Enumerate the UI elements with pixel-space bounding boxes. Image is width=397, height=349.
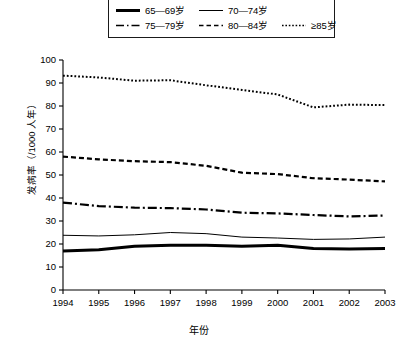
- x-axis-tick-label: 1999: [231, 297, 252, 308]
- legend-row-2: 75—79岁 80—84岁 ≥85岁: [115, 18, 328, 33]
- legend-label-75-79: 75—79岁: [145, 21, 185, 31]
- legend-swatch-dotted: [281, 21, 307, 30]
- x-axis-tick-label: 1994: [52, 297, 73, 308]
- x-axis-tick-label: 2002: [339, 297, 360, 308]
- y-axis-tick-label: 0: [51, 284, 56, 295]
- x-axis-tick-label: 1997: [160, 297, 181, 308]
- legend-entry-75-79: 75—79岁: [115, 21, 185, 31]
- legend-swatch-dash-dot: [115, 21, 141, 30]
- x-axis-tick-label: 1995: [88, 297, 109, 308]
- y-axis-tick-label: 60: [45, 146, 56, 157]
- legend-entry-65-69: 65—69岁: [115, 6, 185, 16]
- legend-entry-85-plus: ≥85岁: [281, 21, 336, 31]
- y-axis-tick-label: 20: [45, 238, 56, 249]
- x-axis-label: 年份: [0, 322, 397, 337]
- legend-swatch-dashed: [198, 21, 224, 30]
- legend-swatch-solid-thick: [115, 6, 141, 15]
- legend-entry-80-84: 80—84岁: [198, 21, 268, 31]
- incidence-rate-line-chart: 65—69岁 70—74岁 75—79岁 80—84岁: [0, 0, 397, 349]
- legend-swatch-solid-thin: [198, 6, 224, 15]
- y-axis-tick-label: 80: [45, 100, 56, 111]
- series-line: [63, 233, 385, 240]
- y-axis-tick-label: 30: [45, 215, 56, 226]
- x-axis-tick-label: 2000: [267, 297, 288, 308]
- y-axis-tick-label: 50: [45, 169, 56, 180]
- x-axis-tick-label: 2003: [374, 297, 395, 308]
- y-axis-tick-label: 10: [45, 261, 56, 272]
- series-line: [63, 203, 385, 217]
- legend-label-80-84: 80—84岁: [228, 21, 268, 31]
- x-axis-tick-label: 1998: [196, 297, 217, 308]
- legend-entry-70-74: 70—74岁: [198, 6, 268, 16]
- legend-label-85-plus: ≥85岁: [311, 21, 336, 31]
- x-axis-tick-label: 1996: [124, 297, 145, 308]
- y-axis-tick-label: 40: [45, 192, 56, 203]
- y-axis-tick-label: 100: [40, 54, 56, 65]
- legend-label-65-69: 65—69岁: [145, 6, 185, 16]
- y-axis-tick-label: 90: [45, 77, 56, 88]
- series-line: [63, 245, 385, 251]
- legend-label-70-74: 70—74岁: [228, 6, 268, 16]
- series-line: [63, 76, 385, 108]
- y-axis-tick-label: 70: [45, 123, 56, 134]
- series-line: [63, 157, 385, 182]
- y-axis-label: 发病率（/1000 人年）: [24, 87, 38, 207]
- x-axis-tick-label: 2001: [303, 297, 324, 308]
- plot-area: 0102030405060708090100199419951996199719…: [0, 0, 397, 349]
- legend-row-1: 65—69岁 70—74岁: [115, 3, 328, 18]
- chart-legend: 65—69岁 70—74岁 75—79岁 80—84岁: [108, 0, 335, 38]
